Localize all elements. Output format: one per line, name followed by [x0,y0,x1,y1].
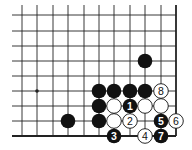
white-stone [138,99,153,114]
move-number: 2 [127,115,133,127]
white-stone [107,99,122,114]
black-stone [61,114,76,129]
black-stone [92,84,107,99]
move-number: 5 [158,115,164,127]
white-stone [154,99,169,114]
white-stone: 6 [169,114,184,129]
black-stone: 3 [107,129,122,144]
black-stone [92,114,107,129]
move-number: 1 [127,100,133,112]
black-stone: 7 [154,129,169,144]
black-stone [92,99,107,114]
stones: 81256347 [61,54,184,144]
move-number: 3 [111,130,117,142]
black-stone [138,84,153,99]
move-number: 7 [158,130,164,142]
move-number: 8 [158,85,164,97]
move-number: 4 [142,130,148,142]
black-stone [107,84,122,99]
white-stone: 2 [123,114,138,129]
go-board: 81256347 [0,0,192,150]
star-points [35,89,39,93]
white-stone [107,114,122,129]
black-stone: 1 [123,99,138,114]
black-stone [138,54,153,69]
white-stone: 8 [154,84,169,99]
move-number: 6 [173,115,179,127]
black-stone: 5 [154,114,169,129]
white-stone: 4 [138,129,153,144]
black-stone [123,84,138,99]
star-point [35,89,39,93]
